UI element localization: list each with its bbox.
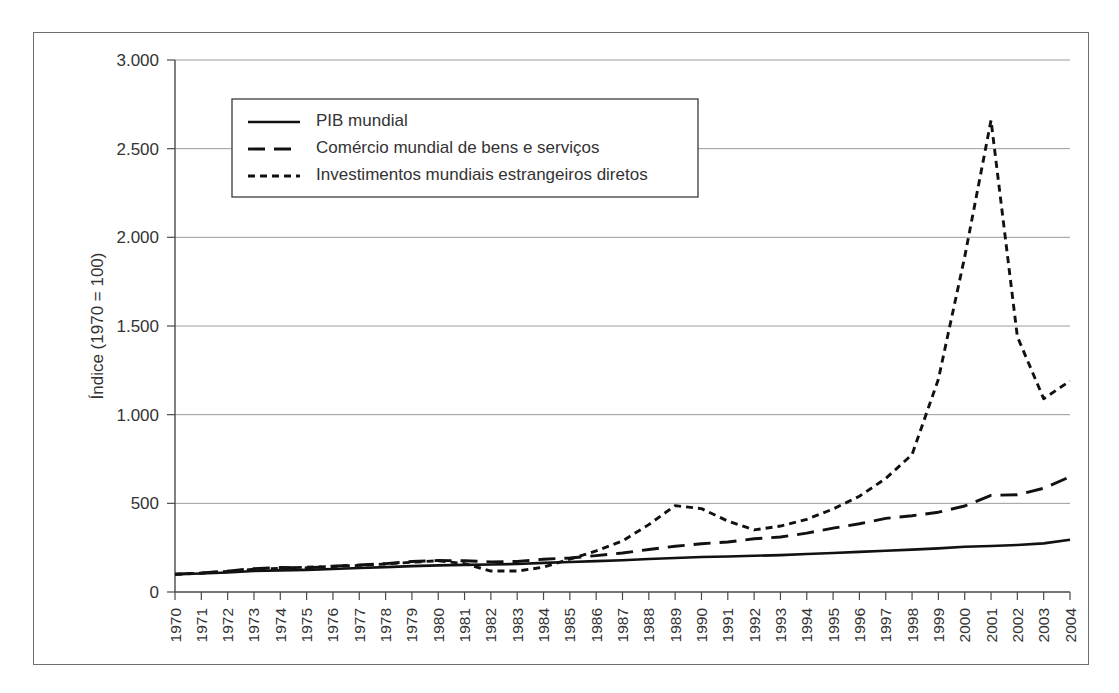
x-tick-label: 1986	[588, 608, 605, 642]
x-tick-label: 1988	[640, 608, 657, 642]
y-axis-title: Índice (1970 = 100)	[88, 253, 107, 400]
x-tick-label: 2002	[1009, 608, 1026, 642]
y-tick-label: 2.500	[116, 140, 159, 159]
x-tick-labels-group: 1970197119721973197419751976197719781979…	[167, 608, 1079, 643]
x-tick-label: 1972	[219, 608, 236, 642]
y-tick-label: 2.000	[116, 228, 159, 247]
line-chart: 05001.0001.5002.0002.5003.000 1970197119…	[0, 0, 1119, 693]
x-tick-label: 1993	[772, 608, 789, 642]
y-tick-label: 0	[150, 583, 159, 602]
x-tick-label: 1976	[324, 608, 341, 642]
x-tick-label: 1981	[456, 608, 473, 642]
x-tick-label: 1994	[798, 608, 815, 643]
x-tick-label: 1997	[877, 608, 894, 642]
chart-legend: PIB mundialComércio mundial de bens e se…	[232, 99, 698, 197]
x-tick-label: 1983	[509, 608, 526, 642]
x-tick-label: 1989	[667, 608, 684, 642]
x-tick-label: 1984	[535, 608, 552, 643]
x-tick-label: 1975	[298, 608, 315, 642]
x-tickmarks-group	[175, 592, 1070, 600]
x-tick-label: 1998	[904, 608, 921, 642]
x-tick-label: 2000	[956, 608, 973, 643]
x-tick-label: 1987	[614, 608, 631, 642]
legend-label-2: Comércio mundial de bens e serviços	[316, 138, 599, 157]
x-tick-label: 1974	[272, 608, 289, 643]
x-tick-label: 1978	[377, 608, 394, 642]
x-tick-label: 2001	[983, 608, 1000, 642]
x-tick-label: 1985	[561, 608, 578, 642]
x-tick-label: 1982	[482, 608, 499, 642]
x-tick-label: 1979	[403, 608, 420, 642]
x-tick-label: 2004	[1062, 608, 1079, 643]
x-tick-label: 1977	[351, 608, 368, 642]
y-tick-label: 1.500	[116, 317, 159, 336]
x-tick-label: 1970	[167, 608, 184, 643]
x-tick-label: 1992	[746, 608, 763, 642]
y-tick-label: 1.000	[116, 406, 159, 425]
y-tick-label: 500	[131, 494, 159, 513]
y-tickmarks-group	[167, 60, 175, 592]
x-tick-label: 1999	[930, 608, 947, 642]
x-tick-label: 1995	[825, 608, 842, 642]
x-tick-label: 1973	[245, 608, 262, 642]
x-tick-label: 1971	[193, 608, 210, 642]
legend-label-1: PIB mundial	[316, 111, 408, 130]
legend-label-3: Investimentos mundiais estrangeiros dire…	[316, 165, 648, 184]
x-tick-label: 2003	[1035, 608, 1052, 642]
y-tick-label: 3.000	[116, 51, 159, 70]
x-tick-label: 1991	[719, 608, 736, 642]
x-tick-label: 1980	[430, 608, 447, 643]
x-tick-label: 1996	[851, 608, 868, 642]
chart-figure: 05001.0001.5002.0002.5003.000 1970197119…	[0, 0, 1119, 693]
y-tick-labels-group: 05001.0001.5002.0002.5003.000	[116, 51, 159, 602]
x-tick-label: 1990	[693, 608, 710, 643]
